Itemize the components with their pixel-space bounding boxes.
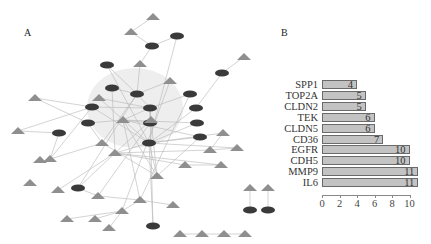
x-tick-label: 8 [384, 198, 400, 209]
network-node-triangle [217, 230, 231, 237]
bar: 10 [322, 156, 410, 165]
network-node-ellipse [243, 206, 257, 213]
network-node-ellipse [130, 90, 144, 97]
bar-category-label: IL6 [260, 177, 318, 188]
bar: 6 [322, 113, 375, 122]
network-node-triangle [146, 13, 160, 20]
network-node-ellipse [215, 69, 229, 76]
network-node-triangle [33, 156, 47, 163]
network-node-ellipse [189, 104, 203, 111]
network-node-triangle [91, 192, 105, 199]
network-node-ellipse [71, 184, 85, 191]
network-edge [18, 107, 92, 131]
bar-category-label: TOP2A [260, 90, 318, 101]
network-node-ellipse [142, 139, 156, 146]
network-node-ellipse [190, 119, 204, 126]
bar: 7 [322, 135, 383, 144]
bar-category-label: EGFR [260, 144, 318, 155]
bar-value-label: 10 [395, 144, 406, 155]
network-edge [98, 196, 140, 200]
bar-value-label: 5 [357, 90, 362, 101]
network-node-triangle [102, 224, 116, 231]
bar: 6 [322, 124, 375, 133]
bar: 10 [322, 145, 410, 154]
network-edge [102, 143, 157, 176]
bar: 4 [322, 80, 357, 89]
bar: 5 [322, 102, 366, 111]
network-edge [35, 98, 88, 123]
bar: 11 [322, 178, 418, 187]
network-node-ellipse [100, 61, 114, 68]
network-node-ellipse [193, 133, 207, 140]
network-node-triangle [108, 149, 122, 156]
bar-value-label: 10 [395, 155, 406, 166]
network-node-triangle [178, 161, 192, 168]
bar: 5 [322, 91, 366, 100]
network-node-triangle [23, 179, 37, 186]
bar-value-label: 11 [404, 166, 414, 177]
network-node-triangle [133, 60, 147, 67]
network-edge [115, 153, 221, 165]
hub-gene-bar-chart: SPP14TOP2A5CLDN25TEK6CLDN56CD367EGFR10CD… [260, 0, 431, 244]
network-edge [50, 133, 59, 159]
network-node-triangle [195, 230, 209, 237]
bar-value-label: 4 [348, 79, 353, 90]
x-tick-label: 2 [332, 198, 348, 209]
network-node-triangle [43, 155, 57, 162]
network-node-ellipse [170, 32, 184, 39]
bar-category-label: SPP1 [260, 79, 318, 90]
bar-value-label: 6 [365, 112, 370, 123]
network-edge [157, 137, 200, 176]
network-node-ellipse [52, 129, 66, 136]
bar: 11 [322, 167, 418, 176]
network-node-ellipse [183, 90, 197, 97]
bar-category-label: MMP9 [260, 166, 318, 177]
network-node-ellipse [81, 119, 95, 126]
network-node-triangle [216, 129, 230, 136]
network-node-ellipse [143, 104, 157, 111]
x-axis-line [322, 195, 411, 196]
network-edge [50, 143, 102, 159]
bar-category-label: CLDN2 [260, 101, 318, 112]
network-node-triangle [243, 184, 257, 191]
bar-category-label: CDH5 [260, 155, 318, 166]
ppi-network-diagram [0, 0, 300, 244]
bar-value-label: 11 [404, 177, 414, 188]
network-node-ellipse [146, 222, 160, 229]
network-node-ellipse [105, 84, 119, 91]
network-node-triangle [124, 28, 138, 35]
x-tick-label: 0 [314, 198, 330, 209]
network-node-triangle [88, 215, 102, 222]
bar-value-label: 6 [365, 123, 370, 134]
x-tick-label: 6 [367, 198, 383, 209]
bar-value-label: 5 [357, 101, 362, 112]
network-node-triangle [11, 127, 25, 134]
network-node-triangle [238, 230, 252, 237]
bar-category-label: TEK [260, 112, 318, 123]
network-node-ellipse [145, 42, 159, 49]
network-node-triangle [28, 94, 42, 101]
bar-category-label: CD36 [260, 134, 318, 145]
network-node-ellipse [85, 103, 99, 110]
network-edge [196, 73, 222, 108]
bar-category-label: CLDN5 [260, 123, 318, 134]
x-tick-label: 4 [349, 198, 365, 209]
network-node-triangle [173, 230, 187, 237]
network-edge [35, 98, 92, 107]
bar-value-label: 7 [374, 134, 379, 145]
x-tick-label: 10 [402, 198, 418, 209]
network-node-triangle [237, 53, 251, 60]
